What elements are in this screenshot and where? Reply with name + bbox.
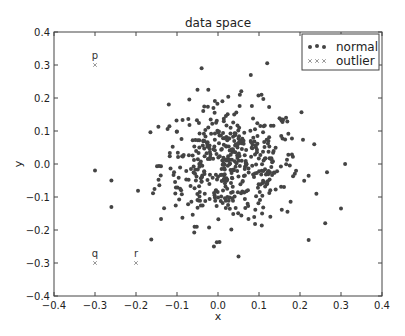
plot-points: pqr — [92, 50, 347, 265]
svg-text:0.3: 0.3 — [34, 60, 50, 71]
svg-text:−0.2: −0.2 — [124, 300, 148, 311]
svg-text:0.4: 0.4 — [34, 27, 50, 38]
x-axis-label: x — [215, 310, 222, 323]
svg-text:0.4: 0.4 — [374, 300, 390, 311]
svg-text:−0.1: −0.1 — [26, 192, 50, 203]
plot-frame — [54, 32, 382, 296]
scatter-chart: data space pqr −0.4−0.3−0.2−0.10.00.10.2… — [0, 0, 405, 336]
chart-title: data space — [185, 16, 251, 30]
svg-text:q: q — [92, 248, 98, 259]
legend-outlier-label: outlier — [336, 54, 375, 68]
svg-text:0.1: 0.1 — [251, 300, 267, 311]
svg-text:p: p — [92, 50, 98, 61]
legend-normal-label: normal — [336, 40, 378, 54]
svg-text:−0.3: −0.3 — [83, 300, 107, 311]
svg-text:−0.3: −0.3 — [26, 258, 50, 269]
svg-text:0.0: 0.0 — [34, 159, 50, 170]
legend: normal outlier — [302, 34, 379, 70]
svg-text:−0.2: −0.2 — [26, 225, 50, 236]
svg-text:0.2: 0.2 — [34, 93, 50, 104]
svg-text:0.3: 0.3 — [333, 300, 349, 311]
y-axis-label: y — [12, 160, 25, 167]
svg-text:0.2: 0.2 — [292, 300, 308, 311]
svg-text:−0.4: −0.4 — [26, 291, 50, 302]
svg-text:−0.1: −0.1 — [165, 300, 189, 311]
svg-text:r: r — [134, 248, 139, 259]
svg-text:0.1: 0.1 — [34, 126, 50, 137]
